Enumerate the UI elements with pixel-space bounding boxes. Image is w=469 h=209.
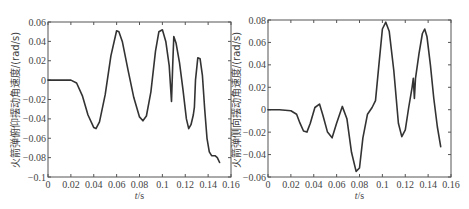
x-tick-label: 0.1 — [376, 179, 389, 190]
y-tick-label: −0.02 — [23, 94, 46, 105]
y-tick-label: −0.02 — [243, 127, 266, 138]
y-tick-label: 0.04 — [29, 36, 47, 47]
y-tick-label: −0.04 — [23, 113, 46, 124]
x-tick-label: 0.08 — [351, 179, 369, 190]
x-tick-label: 0.04 — [305, 179, 323, 190]
yaw-rate-plot: 00.020.040.060.080.10.120.140.160.080.06… — [230, 15, 460, 202]
x-axis-title: t/s — [355, 190, 365, 201]
y-tick-label: 0.02 — [29, 55, 47, 66]
figure-canvas: 00.020.040.060.080.10.120.140.160.060.04… — [0, 0, 469, 209]
y-tick-label: 0 — [41, 75, 46, 86]
x-tick-label: 0.04 — [85, 179, 103, 190]
data-line — [268, 22, 441, 171]
x-tick-label: 0.06 — [328, 179, 346, 190]
x-tick-label: 0.12 — [177, 179, 195, 190]
x-tick-label: 0.12 — [397, 179, 415, 190]
y-tick-label: −0.06 — [243, 172, 266, 183]
x-tick-label: 0 — [46, 179, 51, 190]
y-tick-label: 0.02 — [249, 82, 267, 93]
y-tick-label: −0.04 — [243, 149, 266, 160]
data-line — [48, 30, 220, 163]
x-axis-title: t/s — [135, 190, 145, 201]
y-tick-label: 0.04 — [249, 59, 267, 70]
y-tick-label: −0.1 — [28, 172, 46, 183]
x-tick-label: 0.14 — [419, 179, 437, 190]
y-axis-title: 火箭弹俯仰摆动角速度/(rad/s) — [9, 32, 21, 168]
y-axis-title: 火箭弹侧向摆动角速度/(rad/s) — [230, 32, 242, 168]
pitch-rate-plot: 00.020.040.060.080.10.120.140.160.060.04… — [9, 17, 240, 202]
x-tick-label: 0.02 — [282, 179, 300, 190]
y-tick-label: −0.08 — [23, 152, 46, 163]
x-tick-label: 0.1 — [156, 179, 169, 190]
x-tick-label: 0.02 — [62, 179, 80, 190]
plot-frame — [268, 20, 451, 177]
x-tick-label: 0.16 — [222, 179, 240, 190]
y-tick-label: 0.06 — [29, 17, 47, 28]
x-tick-label: 0.16 — [442, 179, 460, 190]
x-tick-label: 0.14 — [199, 179, 217, 190]
y-tick-label: 0.06 — [249, 37, 267, 48]
x-tick-label: 0.08 — [131, 179, 149, 190]
y-tick-label: −0.06 — [23, 133, 46, 144]
x-tick-label: 0 — [266, 179, 271, 190]
y-tick-label: 0.08 — [249, 15, 267, 26]
x-tick-label: 0.06 — [108, 179, 126, 190]
y-tick-label: 0 — [261, 104, 266, 115]
